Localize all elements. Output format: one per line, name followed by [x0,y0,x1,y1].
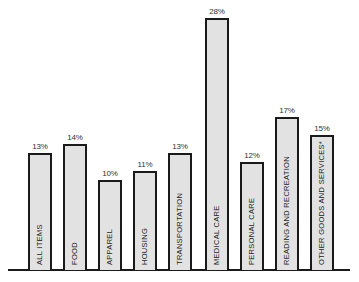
bar-value-label: 13% [20,142,60,151]
bar-value-label: 11% [125,160,165,169]
category-label: PERSONAL CARE [247,198,256,265]
bar-chart: 13%ALL ITEMS14%FOOD10%APPAREL11%HOUSING1… [0,0,359,282]
category-label: READING AND RECREATION [282,156,291,265]
bar-value-label: 10% [90,169,130,178]
category-label: HOUSING [140,228,149,265]
category-label: FOOD [70,242,79,265]
category-label: TRANSPORTATION [175,193,184,265]
bar-value-label: 28% [197,7,237,16]
category-label: APPAREL [105,229,114,265]
bar-value-label: 14% [55,133,95,142]
category-label: MEDICAL CARE [212,205,221,265]
bar-value-label: 15% [302,124,342,133]
category-label: ALL ITEMS [35,224,44,265]
bar-value-label: 12% [232,151,272,160]
category-label: OTHER GOODS AND SERVICES* [317,141,326,265]
bar-value-label: 17% [267,106,307,115]
bar-value-label: 13% [160,142,200,151]
